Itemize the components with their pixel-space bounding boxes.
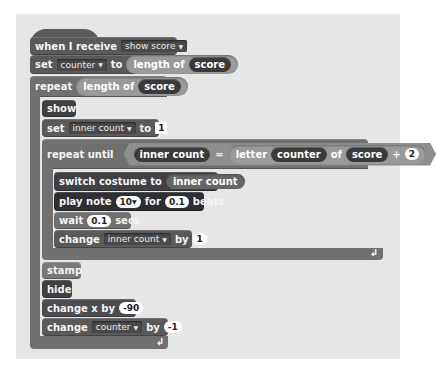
repeat-block[interactable]: repeat length ofscore xyxy=(30,76,167,97)
loop-arrow-icon: ↲ xyxy=(370,247,378,258)
stamp-label: stamp xyxy=(47,265,82,276)
change-x-input[interactable]: -90 xyxy=(119,302,143,314)
switch-costume-block[interactable]: switch costume to inner count xyxy=(54,172,218,191)
dropdown-arrow-icon: ▼ xyxy=(132,198,137,205)
inner-count-variable[interactable]: inner count xyxy=(134,147,211,162)
play-note-label: play note xyxy=(59,196,112,207)
by-label: by xyxy=(175,234,189,245)
value-input[interactable]: 1 xyxy=(155,122,167,134)
hide-block[interactable]: hide xyxy=(42,280,72,298)
to-label: to xyxy=(111,59,123,70)
repeat-label: repeat xyxy=(35,81,72,92)
letter-label: letter xyxy=(236,149,267,160)
variable-value: inner count xyxy=(73,123,124,133)
change-inner-count-block[interactable]: change inner count▼ by 1 xyxy=(54,230,192,248)
variable-dropdown-counter[interactable]: counter▼ xyxy=(57,59,107,71)
repeat-until-arm-left xyxy=(42,168,53,248)
by-label: by xyxy=(146,322,160,333)
secs-label: secs xyxy=(115,215,140,226)
set-label: set xyxy=(35,59,53,70)
show-block[interactable]: show xyxy=(42,100,76,117)
beats-input[interactable]: 0.1 xyxy=(165,196,189,208)
change-value-input[interactable]: -1 xyxy=(164,321,182,333)
repeat-arm-bottom xyxy=(30,336,168,349)
when-i-receive-block[interactable]: when I receive show score▼ xyxy=(30,37,177,55)
message-value: show score xyxy=(125,41,175,51)
change-x-block[interactable]: change x by -90 xyxy=(42,299,136,317)
stamp-block[interactable]: stamp xyxy=(42,262,81,279)
length-of-reporter[interactable]: length ofscore xyxy=(76,77,188,96)
dropdown-arrow-icon: ▼ xyxy=(162,236,167,243)
length-of-label: length of xyxy=(83,81,134,92)
note-value: 10 xyxy=(120,197,133,207)
score-variable[interactable]: score xyxy=(138,79,180,94)
dropdown-arrow-icon: ▼ xyxy=(178,43,183,50)
plus-sign: + xyxy=(392,149,400,160)
variable-dropdown-counter[interactable]: counter▼ xyxy=(92,321,142,333)
variable-dropdown-inner-count[interactable]: inner count▼ xyxy=(69,122,136,134)
score-variable[interactable]: score xyxy=(189,57,231,72)
hide-label: hide xyxy=(47,284,72,295)
wait-input[interactable]: 0.1 xyxy=(87,215,111,227)
change-counter-block[interactable]: change counter▼ by -1 xyxy=(42,318,168,336)
repeat-until-block[interactable]: repeat until inner count = letter counte… xyxy=(42,139,368,169)
equals-sign: = xyxy=(215,149,223,160)
for-label: for xyxy=(145,196,161,207)
play-note-block[interactable]: play note 10▼ for 0.1 beats xyxy=(54,192,204,211)
length-of-reporter[interactable]: length ofscore xyxy=(126,55,238,74)
beats-label: beats xyxy=(193,196,224,207)
message-dropdown[interactable]: show score▼ xyxy=(121,40,187,52)
to-label: to xyxy=(140,123,152,134)
set-label: set xyxy=(47,123,65,134)
dropdown-arrow-icon: ▼ xyxy=(127,125,132,132)
equals-operator[interactable]: inner count = letter counter of score + … xyxy=(124,143,436,166)
change-label: change xyxy=(47,322,88,333)
repeat-until-label: repeat until xyxy=(47,149,114,160)
letter-of-reporter[interactable]: letter counter of score + 2 xyxy=(229,145,426,164)
change-value-input[interactable]: 1 xyxy=(193,233,207,245)
plus-value-input[interactable]: 2 xyxy=(405,148,419,160)
switch-costume-label: switch costume to xyxy=(59,176,162,187)
repeat-arm-left xyxy=(30,96,40,336)
variable-dropdown-inner-count[interactable]: inner count▼ xyxy=(104,233,171,245)
of-label: of xyxy=(331,149,342,160)
change-label: change xyxy=(59,234,100,245)
inner-count-reporter[interactable]: inner count xyxy=(166,174,245,189)
variable-value: counter xyxy=(61,60,96,70)
dropdown-arrow-icon: ▼ xyxy=(98,61,103,68)
show-label: show xyxy=(47,103,76,114)
change-x-label: change x by xyxy=(47,303,115,314)
variable-value: inner count xyxy=(108,234,159,244)
set-inner-count-block[interactable]: set inner count▼ to 1 xyxy=(42,119,159,137)
set-counter-block[interactable]: set counter▼ to length ofscore xyxy=(30,55,218,74)
loop-arrow-icon: ↲ xyxy=(156,336,164,347)
when-i-receive-label: when I receive xyxy=(35,41,117,52)
counter-variable[interactable]: counter xyxy=(271,147,327,162)
repeat-until-arm-bottom xyxy=(42,248,383,260)
length-of-label: length of xyxy=(133,59,184,70)
wait-block[interactable]: wait 0.1 secs xyxy=(54,212,131,229)
score-variable[interactable]: score xyxy=(346,147,388,162)
variable-value: counter xyxy=(96,322,131,332)
note-dropdown[interactable]: 10▼ xyxy=(116,196,141,208)
dropdown-arrow-icon: ▼ xyxy=(134,324,139,331)
wait-label: wait xyxy=(59,215,83,226)
